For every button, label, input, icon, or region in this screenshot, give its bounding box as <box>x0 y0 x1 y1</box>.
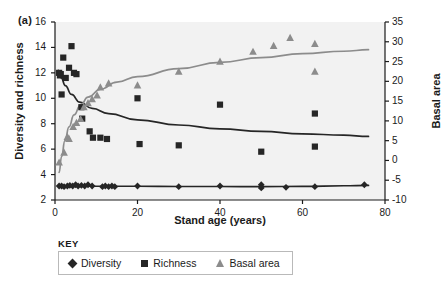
legend-item-label: Richness <box>153 257 196 269</box>
data-point-square <box>60 55 66 61</box>
triangle-marker-icon <box>216 259 224 267</box>
data-point-square <box>134 95 140 101</box>
y-tick-label-left: 6 <box>22 143 46 154</box>
y-tick-label-right: 10 <box>392 115 420 126</box>
y-tick-label-right: 0 <box>392 154 420 165</box>
data-point-square <box>68 43 74 49</box>
y-tick-label-right: -10 <box>392 194 420 205</box>
y-tick-label-left: 8 <box>22 118 46 129</box>
y-tick-label-right: 5 <box>392 135 420 146</box>
data-point-square <box>73 71 79 77</box>
square-marker-icon <box>141 260 148 267</box>
y-tick-label-left: 12 <box>22 67 46 78</box>
y-tick-label-left: 2 <box>22 194 46 205</box>
y-tick-label-right: 20 <box>392 75 420 86</box>
data-point-square <box>176 142 182 148</box>
data-point-square <box>59 91 65 97</box>
y-tick-label-left: 10 <box>22 92 46 103</box>
diamond-marker-icon <box>68 258 78 268</box>
y-tick-label-right: -5 <box>392 174 420 185</box>
data-point-square <box>87 128 93 134</box>
data-point-square <box>63 75 69 81</box>
data-point-square <box>136 141 142 147</box>
x-tick-label: 40 <box>206 207 234 218</box>
legend-item-richness[interactable]: Richness <box>141 257 196 269</box>
data-point-square <box>258 149 264 155</box>
data-point-square <box>90 135 96 141</box>
legend-item-diversity[interactable]: Diversity <box>69 257 121 269</box>
x-tick-label: 20 <box>124 207 152 218</box>
legend-item-label: Basal area <box>229 257 279 269</box>
x-tick-label: 0 <box>41 207 69 218</box>
y-tick-label-left: 4 <box>22 169 46 180</box>
plot-background <box>55 22 385 200</box>
legend: KEY DiversityRichnessBasal area <box>58 238 293 275</box>
data-point-square <box>97 135 103 141</box>
y-tick-label-right: 15 <box>392 95 420 106</box>
data-point-square <box>312 110 318 116</box>
y-tick-label-right: 35 <box>392 16 420 27</box>
legend-item-label: Diversity <box>81 257 121 269</box>
data-point-square <box>217 102 223 108</box>
data-point-square <box>104 136 110 142</box>
legend-item-basal-area[interactable]: Basal area <box>216 257 279 269</box>
x-tick-label: 60 <box>289 207 317 218</box>
y-tick-label-right: 30 <box>392 36 420 47</box>
y-tick-label-left: 16 <box>22 16 46 27</box>
legend-box: DiversityRichnessBasal area <box>58 251 293 275</box>
x-tick-label: 80 <box>371 207 399 218</box>
data-point-square <box>312 144 318 150</box>
y-tick-label-left: 14 <box>22 41 46 52</box>
y-tick-label-right: 25 <box>392 56 420 67</box>
legend-title: KEY <box>58 238 293 249</box>
